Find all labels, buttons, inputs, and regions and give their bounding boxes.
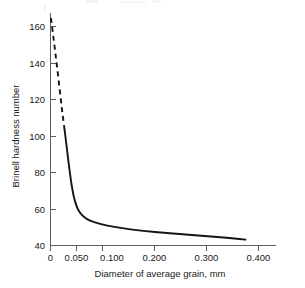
y-tick-label: 80	[34, 167, 45, 178]
x-tick-label: 0.100	[100, 252, 124, 263]
x-tick-label: 0.400	[247, 252, 271, 263]
y-tick-label: 120	[29, 94, 45, 105]
x-tick-labels: 0 0.050 0.100 0.200 0.300 0.400	[48, 252, 271, 263]
y-tick-label: 100	[29, 131, 45, 142]
series-measured-solid	[65, 130, 246, 240]
chart-plot: 160 140 120 100 80 60 40 0 0.050 0.100 0…	[0, 0, 305, 288]
x-tick-label: 0.050	[65, 252, 89, 263]
chart-figure: 160 140 120 100 80 60 40 0 0.050 0.100 0…	[0, 0, 305, 288]
y-tick-marks	[51, 27, 56, 246]
cropped-caption-artifact	[44, 0, 161, 11]
series-extrapolated-dashed	[51, 18, 65, 130]
y-tick-label: 160	[29, 21, 45, 32]
x-tick-marks	[51, 246, 259, 251]
y-axis-title: Brinell hardness number	[10, 85, 21, 188]
x-tick-label: 0	[48, 252, 53, 263]
x-tick-label: 0.200	[143, 252, 167, 263]
x-axis-title: Diameter of average grain, mm	[95, 268, 226, 279]
y-tick-label: 40	[34, 240, 45, 251]
axes-group	[51, 13, 277, 246]
y-tick-label: 60	[34, 204, 45, 215]
y-tick-labels: 160 140 120 100 80 60 40	[29, 21, 45, 251]
x-tick-label: 0.300	[195, 252, 219, 263]
y-tick-label: 140	[29, 58, 45, 69]
